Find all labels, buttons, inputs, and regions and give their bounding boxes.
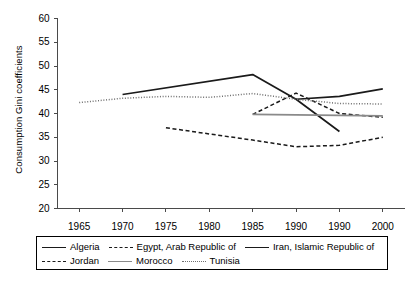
legend-item: Iran, Islamic Republic of	[245, 242, 374, 252]
legend-item: Tunisia	[182, 256, 240, 266]
series-line-tunisia	[79, 94, 383, 104]
legend-swatch-icon	[108, 258, 132, 265]
legend-swatch-icon	[42, 244, 66, 251]
legend-label: Egypt, Arab Republic of	[137, 242, 236, 252]
legend-row: AlgeriaEgypt, Arab Republic ofIran, Isla…	[42, 240, 383, 254]
legend-item: Morocco	[108, 256, 172, 266]
series-line-morocco	[253, 114, 383, 115]
chart-legend: AlgeriaEgypt, Arab Republic ofIran, Isla…	[36, 236, 388, 270]
legend-item: Algeria	[42, 242, 100, 252]
legend-label: Iran, Islamic Republic of	[273, 242, 374, 252]
data-series-group	[79, 75, 383, 147]
series-line-algeria	[123, 75, 340, 132]
series-line-jordan	[166, 128, 383, 147]
legend-label: Algeria	[70, 242, 100, 252]
legend-swatch-icon	[109, 244, 133, 251]
series-line-egypt-arab-republic-of	[253, 93, 383, 117]
legend-label: Morocco	[136, 256, 172, 266]
legend-row: JordanMoroccoTunisia	[42, 254, 383, 268]
legend-item: Egypt, Arab Republic of	[109, 242, 236, 252]
legend-swatch-icon	[42, 258, 66, 265]
legend-label: Tunisia	[210, 256, 240, 266]
legend-swatch-icon	[245, 244, 269, 251]
legend-swatch-icon	[182, 258, 206, 265]
legend-label: Jordan	[70, 256, 99, 266]
series-line-iran-islamic-republic-of	[296, 89, 383, 99]
legend-item: Jordan	[42, 256, 99, 266]
chart-figure: Consumption Gini coefficients 2025303540…	[0, 0, 420, 284]
